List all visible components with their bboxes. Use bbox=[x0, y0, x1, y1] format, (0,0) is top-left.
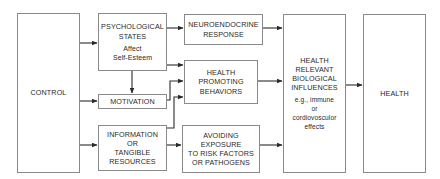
neuroendocrine-line-1: NEUROENDOCRINE bbox=[188, 20, 259, 29]
control-box: CONTROL bbox=[17, 13, 80, 173]
biological-line-3: BIOLOGICAL bbox=[292, 74, 337, 83]
health-promoting-line-2: PROMOTING bbox=[198, 77, 243, 86]
avoiding-line-4: OR PATHOGENS bbox=[192, 158, 250, 167]
arrow-information-to-health-promoting bbox=[166, 97, 183, 128]
psychological-states-line-2: STATES bbox=[119, 32, 147, 41]
neuroendocrine-line-2: RESPONSE bbox=[203, 30, 244, 39]
health-promoting-box: HEALTH PROMOTING BEHAVIORS bbox=[184, 60, 258, 104]
biological-sub-4: effects bbox=[293, 122, 337, 131]
biological-sub-2: or bbox=[293, 104, 337, 113]
psychological-states-sub-1: Affect bbox=[113, 44, 152, 53]
information-line-3: TANGIBLE bbox=[115, 148, 151, 157]
biological-sub-1: e.g., immune bbox=[293, 95, 337, 104]
biological-line-2: RELEVANT bbox=[295, 65, 333, 74]
psychological-states-sub-2: Self-Esteem bbox=[113, 53, 152, 62]
information-box: INFORMATION OR TANGIBLE RESOURCES bbox=[98, 125, 167, 171]
biological-influences-box: HEALTH RELEVANT BIOLOGICAL INFLUENCES e.… bbox=[283, 14, 346, 173]
health-box: HEALTH bbox=[363, 14, 426, 173]
biological-line-1: HEALTH bbox=[300, 56, 328, 65]
biological-sub-3: cordiovosculor bbox=[293, 113, 337, 122]
biological-examples: e.g., immune or cordiovosculor effects bbox=[293, 95, 337, 131]
avoiding-line-2: EXPOSURE bbox=[201, 140, 242, 149]
motivation-label: MOTIVATION bbox=[110, 97, 155, 106]
avoiding-exposure-box: AVOIDING EXPOSURE TO RISK FACTORS OR PAT… bbox=[182, 125, 260, 173]
information-line-1: INFORMATION bbox=[107, 130, 158, 139]
health-promoting-line-1: HEALTH bbox=[207, 68, 235, 77]
psychological-states-line-1: PSYCHOLOGICAL bbox=[101, 22, 164, 31]
control-label: CONTROL bbox=[31, 88, 67, 97]
neuroendocrine-box: NEUROENDOCRINE RESPONSE bbox=[184, 14, 263, 45]
avoiding-line-1: AVOIDING bbox=[203, 131, 238, 140]
biological-line-4: INFLUENCES bbox=[291, 83, 338, 92]
psychological-states-examples: Affect Self-Esteem bbox=[113, 44, 152, 62]
psychological-states-box: PSYCHOLOGICAL STATES Affect Self-Esteem bbox=[98, 13, 167, 71]
health-promoting-line-3: BEHAVIORS bbox=[200, 87, 242, 96]
health-label: HEALTH bbox=[380, 89, 408, 98]
motivation-box: MOTIVATION bbox=[98, 94, 167, 109]
information-line-4: RESOURCES bbox=[109, 157, 155, 166]
information-line-2: OR bbox=[127, 139, 138, 148]
avoiding-line-3: TO RISK FACTORS bbox=[188, 149, 254, 158]
